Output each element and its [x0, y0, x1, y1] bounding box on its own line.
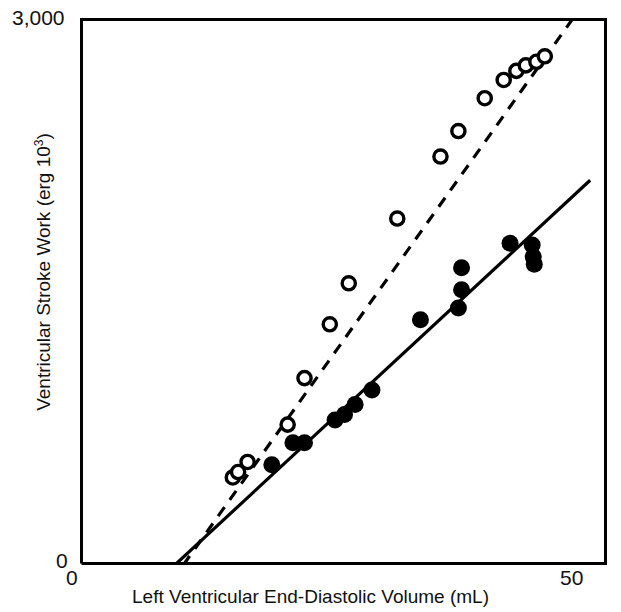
data-point-filled-6: [363, 381, 380, 398]
data-point-filled-9: [453, 281, 470, 298]
y-axis-title-exponent: 3: [32, 139, 46, 146]
x-axis-title: Left Ventricular End-Diastolic Volume (m…: [0, 586, 621, 608]
data-point-open-8: [434, 150, 447, 163]
y-axis-title-tail: ): [34, 133, 55, 139]
data-point-filled-11: [502, 235, 519, 252]
axis-frame-path: [82, 20, 606, 564]
plot-canvas: [80, 18, 607, 565]
plot-area: [80, 18, 607, 565]
data-point-open-11: [497, 73, 510, 86]
fit-line-open-circles: [183, 18, 573, 565]
data-points: [226, 50, 551, 484]
data-point-filled-8: [450, 299, 467, 316]
data-point-open-2: [241, 455, 254, 468]
data-point-open-15: [538, 50, 551, 63]
y-axis-title-main: Ventricular Stroke Work (erg 10: [34, 146, 55, 411]
data-point-filled-7: [412, 311, 429, 328]
data-point-open-3: [281, 418, 294, 431]
chart-figure: 3,000 0 0 50 Left Ventricular End-Diasto…: [0, 0, 621, 612]
data-point-filled-2: [296, 434, 313, 451]
data-point-filled-0: [263, 456, 280, 473]
data-point-open-6: [342, 277, 355, 290]
data-point-filled-14: [526, 256, 543, 273]
y-axis-max-tick-label: 3,000: [12, 6, 65, 30]
data-point-open-9: [452, 124, 465, 137]
data-point-open-10: [478, 92, 491, 105]
data-point-open-7: [391, 212, 404, 225]
axis-frame: [82, 20, 606, 564]
data-point-filled-10: [453, 259, 470, 276]
y-axis-title: Ventricular Stroke Work (erg 103): [32, 133, 55, 411]
y-axis-title-container: Ventricular Stroke Work (erg 103): [30, 0, 58, 552]
data-point-open-4: [298, 372, 311, 385]
data-point-open-5: [323, 318, 336, 331]
data-point-filled-5: [347, 396, 364, 413]
